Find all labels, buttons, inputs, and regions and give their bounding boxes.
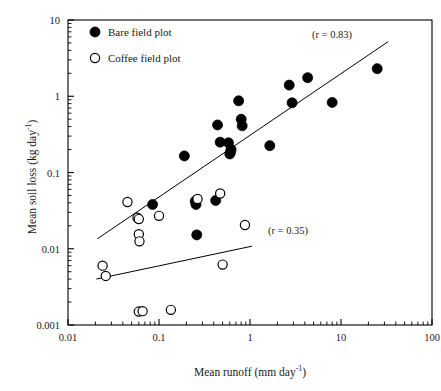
x-axis-label-base: Mean runoff (mm day [194,366,296,378]
y-axis-tick-label: 1 [55,91,60,102]
data-point-bare [234,96,244,106]
y-axis-tick-label: 0.01 [42,244,60,255]
y-axis-tick-label: 0.1 [47,168,60,179]
data-point-coffee [135,237,144,246]
chart-canvas: 0.010.11101000.0010.010.1110 Bare field … [0,0,441,391]
data-point-coffee [138,307,147,316]
data-point-bare [237,121,247,131]
data-point-bare [148,200,158,210]
x-axis-tick-label: 0.01 [59,332,77,343]
y-axis-label-base: Mean soil loss (kg day [26,130,38,234]
data-point-coffee [216,189,225,198]
data-point-bare [213,120,223,130]
correlation-label: (r = 0.35) [268,225,309,237]
x-axis-label: Mean runoff (mm day-1) [100,364,400,378]
x-axis-tick-label: 1 [247,332,252,343]
scatter-chart-figure: 0.010.11101000.0010.010.1110 Bare field … [0,0,441,391]
data-point-bare [284,80,294,90]
data-point-bare [287,98,297,108]
y-axis-tick-label: 10 [50,15,61,26]
legend-marker-bare [90,27,100,37]
data-point-coffee [240,220,249,229]
x-axis-tick-label: 0.1 [152,332,165,343]
y-axis-label-exponent: -1 [24,124,33,131]
data-point-coffee [101,271,110,280]
data-point-coffee [166,305,175,314]
data-point-coffee [218,260,227,269]
data-point-coffee [134,214,143,223]
x-axis-tick-label: 10 [336,332,347,343]
data-point-coffee [154,211,163,220]
y-axis-tick-label: 0.001 [36,320,60,331]
x-axis-tick-label: 100 [424,332,440,343]
data-point-coffee [123,197,132,206]
correlation-label: (r = 0.83) [312,29,353,41]
data-point-bare [265,141,275,151]
chart-legend: Bare field plotCoffee field plot [90,26,181,64]
legend-label: Bare field plot [108,26,172,38]
data-point-coffee [98,261,107,270]
x-axis-label-tail: ) [302,366,306,378]
data-points [98,64,382,317]
data-point-bare [372,64,382,74]
y-axis-label-tail: ) [26,120,38,124]
data-point-bare [327,97,337,107]
legend-label: Coffee field plot [108,52,181,64]
data-point-bare [179,151,189,161]
regression-line [97,42,388,239]
data-point-coffee [193,194,202,203]
legend-marker-coffee [90,53,99,62]
data-point-bare [303,73,313,83]
y-axis-label: Mean soil loss (kg day-1) [24,82,38,272]
data-point-bare [192,230,202,240]
regression-line [96,246,252,279]
data-point-bare [226,145,236,155]
correlation-annotations: (r = 0.83)(r = 0.35) [268,29,353,237]
